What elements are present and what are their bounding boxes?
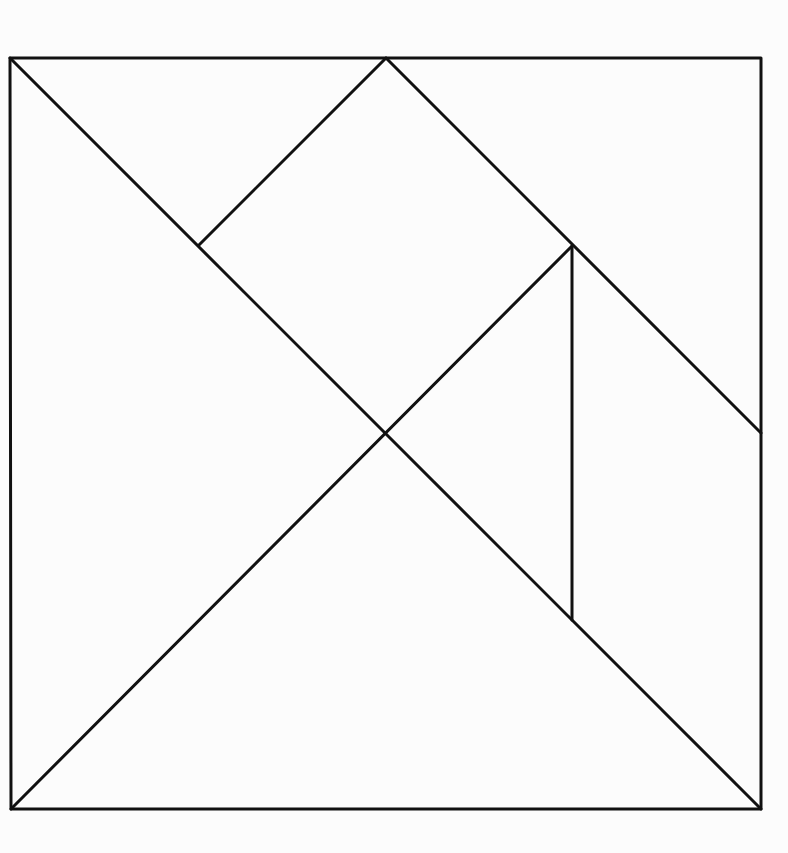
tangram-diagram: Large triangle (left)Large triangle (bot…: [0, 0, 788, 853]
